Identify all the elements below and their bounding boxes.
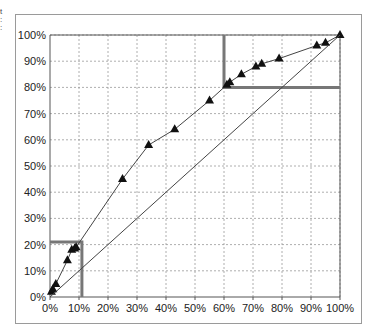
y-tick-label: 60% — [24, 134, 46, 146]
x-tick-label: 10% — [68, 302, 90, 314]
triangle-marker-icon — [237, 69, 246, 77]
lorenz-chart: 0%10%20%30%40%50%60%70%80%90%100%0%10%20… — [0, 0, 377, 333]
x-tick-label: 30% — [126, 302, 148, 314]
y-tick-label: 90% — [24, 55, 46, 67]
x-tick-label: 20% — [97, 302, 119, 314]
x-tick-label: 100% — [326, 302, 354, 314]
y-tick-label: 20% — [24, 239, 46, 251]
y-tick-label: 70% — [24, 108, 46, 120]
diagonal-line — [50, 35, 340, 297]
triangle-marker-icon — [170, 124, 179, 132]
y-tick-label: 80% — [24, 81, 46, 93]
y-tick-label: 0% — [30, 291, 46, 303]
triangle-marker-icon — [51, 279, 60, 287]
triangle-marker-icon — [336, 30, 345, 38]
triangle-marker-icon — [205, 96, 214, 104]
triangle-marker-icon — [144, 140, 153, 148]
y-tick-label: 10% — [24, 265, 46, 277]
triangle-marker-icon — [63, 255, 72, 263]
x-tick-label: 0% — [42, 302, 58, 314]
y-tick-label: 40% — [24, 186, 46, 198]
x-tick-label: 90% — [300, 302, 322, 314]
y-tick-label: 100% — [18, 29, 46, 41]
y-tick-label: 50% — [24, 160, 46, 172]
x-tick-label: 50% — [184, 302, 206, 314]
x-tick-label: 60% — [213, 302, 235, 314]
x-tick-label: 70% — [242, 302, 264, 314]
x-tick-label: 80% — [271, 302, 293, 314]
x-tick-label: 40% — [155, 302, 177, 314]
y-tick-label: 30% — [24, 212, 46, 224]
